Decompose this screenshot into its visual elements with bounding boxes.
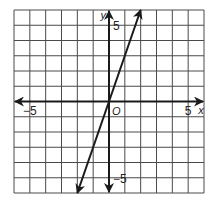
x-axis-label: x [197, 104, 204, 116]
y-tick-label-5: 5 [113, 19, 120, 33]
y-axis-label: y [100, 9, 108, 21]
x-tick-label-5: 5 [185, 104, 192, 118]
x-tick-label-neg5: −5 [23, 104, 37, 118]
coordinate-plane: y x O −5 5 5 −5 [0, 0, 214, 201]
origin-label: O [112, 105, 121, 117]
y-tick-label-neg5: −5 [113, 172, 127, 186]
